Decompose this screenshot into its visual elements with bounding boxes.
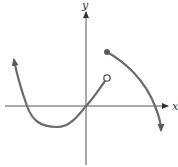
open-circle-endpoint bbox=[104, 75, 110, 81]
left-curve bbox=[14, 60, 105, 127]
y-axis-label: y bbox=[81, 0, 89, 12]
x-axis-label: x bbox=[172, 100, 178, 113]
right-curve bbox=[107, 52, 161, 130]
filled-dot-endpoint bbox=[104, 49, 110, 55]
piecewise-graph: x y bbox=[0, 0, 178, 167]
